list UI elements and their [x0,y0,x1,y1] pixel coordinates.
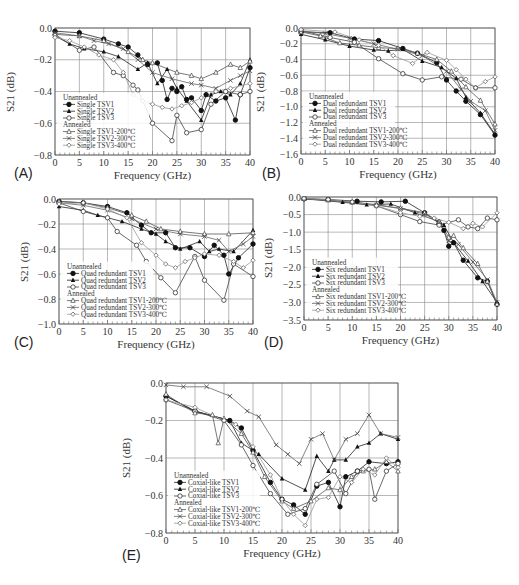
open-circle-marker [131,83,135,87]
filled-circle-marker [223,96,227,100]
open-circle-marker [173,291,177,295]
open-circle-marker [223,89,227,93]
filled-circle-marker [328,31,332,35]
legend-filled-circle-icon [71,271,75,275]
x-tick-label: 20 [148,157,158,168]
y-tick-label: −0.2 [280,38,298,49]
open-diamond-marker [160,105,164,109]
x-tick-label: 0 [302,322,307,333]
open-circle-marker [439,75,443,79]
open-diamond-marker [483,79,487,83]
x-axis-label: Frequency (GHz) [243,547,321,560]
open-circle-marker [159,276,163,280]
open-triangle-marker [228,62,232,66]
legend-entry: Single TSV3-400℃ [77,142,135,150]
open-circle-marker [199,127,203,131]
open-circle-marker [222,298,226,302]
open-diamond-marker [189,100,193,104]
filled-circle-marker [180,85,184,89]
filled-circle-marker [149,231,153,235]
legend: UnannealedSix redundant TSV1Six redundan… [306,258,406,316]
panel-label: (C) [14,334,33,350]
cross-marker [245,409,249,413]
filled-circle-marker [155,61,159,65]
filled-circle-marker [461,258,465,262]
open-diamond-marker [391,53,395,57]
open-triangle-marker [451,233,455,237]
y-tick-label: −1.5 [283,244,301,255]
open-diamond-marker [97,53,101,57]
filled-circle-marker [239,426,243,430]
filled-circle-marker [268,480,272,484]
filled-circle-marker [189,96,193,100]
filled-circle-marker [188,246,192,250]
open-circle-marker [77,48,81,52]
y-axis-label: S21 (dB) [254,72,267,112]
filled-triangle-marker [136,67,140,71]
y-tick-label: −0.2 [145,415,163,426]
x-tick-label: 30 [442,156,452,167]
open-circle-marker [373,497,377,501]
open-circle-marker [111,70,115,74]
open-circle-marker [81,209,85,213]
cross-marker [257,415,261,419]
cross-marker [320,431,324,435]
open-diamond-marker [338,475,342,479]
open-triangle-marker [373,467,377,471]
x-tick-label: 25 [417,156,427,167]
legend-entry: Quad redundant TSV3-400℃ [81,311,167,319]
filled-circle-marker [116,42,120,46]
filled-circle-marker [447,244,451,248]
y-tick-label: −2.5 [283,279,301,290]
y-tick-label: −0.2 [38,219,56,230]
open-circle-marker [92,45,96,49]
open-triangle-marker [216,440,220,444]
y-tick-label: −3.0 [283,297,301,308]
y-tick-label: 0.0 [40,23,53,34]
x-tick-label: 25 [175,326,185,337]
x-tick-label: 15 [369,156,379,167]
filled-circle-marker [251,242,255,246]
open-diamond-marker [447,220,451,224]
legend: UnannealedDual redundant TSV1Dual redund… [303,92,408,150]
y-tick-label: −1.0 [280,101,298,112]
y-tick-label: −0.8 [280,86,298,97]
x-tick-label: 25 [306,535,316,546]
open-circle-marker [420,78,424,82]
panel-label: (E) [122,547,141,563]
y-axis-label: S21 (dB) [262,238,275,278]
x-tick-label: 25 [420,322,430,333]
y-axis-label: S21 (dB) [18,242,31,282]
filled-circle-marker [199,108,203,112]
filled-circle-marker [233,118,237,122]
x-tick-label: 30 [196,157,206,168]
x-tick-label: 0 [164,535,169,546]
x-tick-label: 30 [335,535,345,546]
x-tick-label: 35 [468,322,478,333]
x-tick-label: 20 [396,322,406,333]
open-circle-marker [251,274,255,278]
open-diamond-marker [461,226,465,230]
filled-circle-marker [367,460,371,464]
y-tick-label: −1.6 [280,149,298,160]
x-tick-label: 5 [323,156,328,167]
open-diamond-marker [326,495,330,499]
open-circle-marker [332,469,336,473]
filled-circle-marker [204,92,208,96]
filled-triangle-marker [175,86,179,90]
filled-triangle-marker [420,58,424,62]
x-tick-label: 30 [444,322,454,333]
x-tick-label: 35 [224,326,234,337]
filled-circle-marker [379,200,383,204]
x-tick-label: 10 [347,322,357,333]
x-tick-label: 20 [393,156,403,167]
filled-circle-marker [464,99,468,103]
filled-triangle-marker [367,440,371,444]
x-tick-label: 40 [490,156,500,167]
figure: 05101520253035400.0−0.2−0.4−0.6−0.8Frequ… [0,0,519,585]
open-diamond-marker [357,38,361,42]
x-axis-label: Frequency (GHz) [362,334,440,347]
open-circle-marker [134,243,138,247]
x-axis-label: Frequency (GHz) [117,338,195,351]
y-tick-label: −1.2 [280,117,298,128]
